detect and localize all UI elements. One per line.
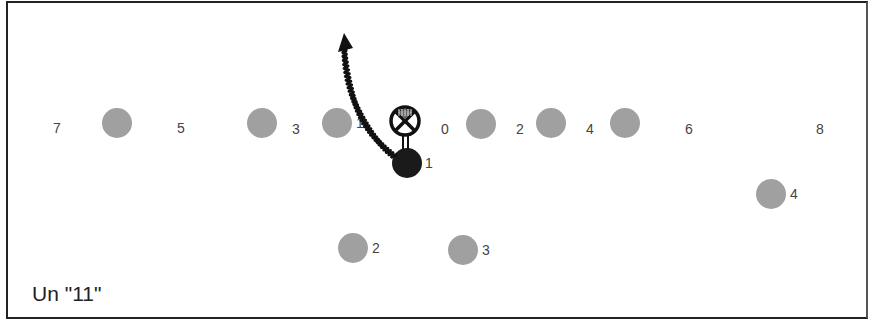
gap-number: 4 [586, 121, 594, 137]
ball-carrier-marker [392, 148, 422, 178]
player-number: 2 [372, 240, 380, 256]
gap-number: 2 [516, 121, 524, 137]
player-marker [536, 108, 566, 138]
gap-number: 7 [53, 120, 61, 136]
center-crossed-circle-icon [391, 107, 419, 149]
player-marker [247, 108, 277, 138]
player-marker [338, 233, 368, 263]
player-marker [756, 179, 786, 209]
play-title: Un "11" [32, 282, 101, 305]
player-marker [322, 108, 352, 138]
player-number: 3 [482, 242, 490, 258]
gap-number: 6 [685, 121, 693, 137]
ball-carrier-number: 1 [425, 155, 433, 171]
player-marker [466, 109, 496, 139]
players: 12341 [102, 108, 798, 265]
gap-number: 8 [816, 121, 824, 137]
player-marker [102, 108, 132, 138]
play-diagram: 75302468 12341 Un "11" [0, 0, 874, 333]
gap-number: 0 [441, 121, 449, 137]
gap-number: 5 [177, 120, 185, 136]
run-route-arrow [338, 33, 396, 157]
gap-number: 3 [292, 121, 300, 137]
player-number: 4 [790, 186, 798, 202]
player-marker [448, 235, 478, 265]
player-marker [610, 108, 640, 138]
arrowhead-icon [338, 33, 353, 52]
gap-numbers: 75302468 [53, 120, 824, 137]
